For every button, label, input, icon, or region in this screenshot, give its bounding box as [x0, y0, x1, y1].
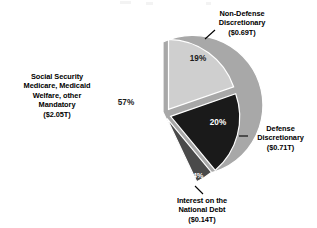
slice-percent-interest: 4%	[188, 171, 208, 180]
leader-line-interest	[195, 186, 203, 194]
label-line: National Debt	[150, 205, 254, 214]
label-line: Defense	[244, 124, 317, 133]
label-interest-national-debt: Interest on the National Debt ($0.14T)	[150, 196, 254, 224]
slice-percent-non-defense: 19%	[186, 54, 210, 63]
label-line: Interest on the	[150, 196, 254, 205]
label-non-defense-discretionary: Non-Defense Discretionary ($0.69T)	[196, 9, 288, 37]
label-defense-discretionary: Defense Discretionary ($0.71T)	[244, 124, 317, 152]
label-line: Discretionary	[244, 133, 317, 142]
label-line: Medicare, Medicaid	[6, 81, 108, 90]
pie-chart: Non-Defense Discretionary ($0.69T) Defen…	[0, 0, 317, 228]
label-line: Welfare, other	[6, 91, 108, 100]
slice-percent-defense: 20%	[206, 118, 230, 127]
label-line: ($0.71T)	[244, 143, 317, 152]
label-line: Discretionary	[196, 18, 288, 27]
slice-percent-mandatory: 57%	[113, 98, 139, 107]
label-mandatory-spending: Social Security Medicare, Medicaid Welfa…	[6, 72, 108, 119]
label-line: Social Security	[6, 72, 108, 81]
label-line: Non-Defense	[196, 9, 288, 18]
label-line: Mandatory	[6, 100, 108, 109]
label-line: ($2.05T)	[6, 110, 108, 119]
label-line: ($0.14T)	[150, 215, 254, 224]
label-line: ($0.69T)	[196, 28, 288, 37]
